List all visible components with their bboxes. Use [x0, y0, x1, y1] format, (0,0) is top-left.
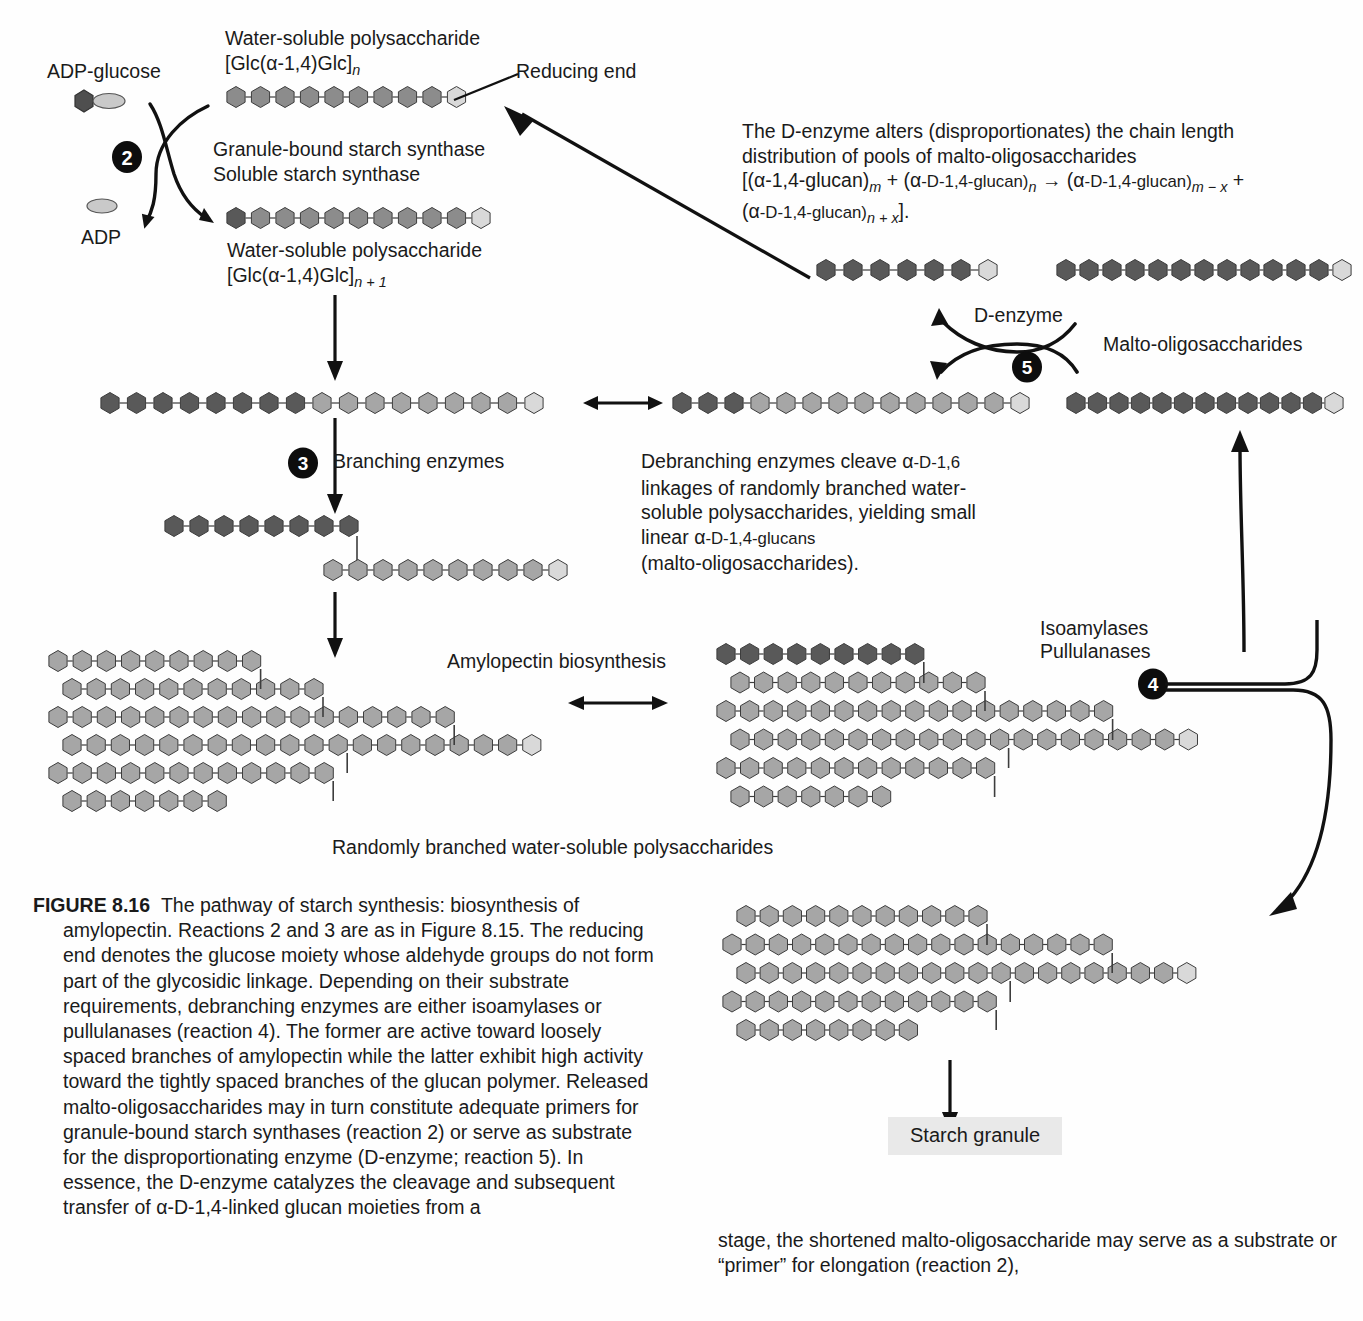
gbss-label: Granule-bound starch synthase	[213, 138, 485, 161]
d-enzyme-note-line2: distribution of pools of malto-oligosacc…	[742, 144, 1352, 169]
polysaccharide-n-line1: Water-soluble polysaccharide	[225, 26, 480, 51]
debranching-note-line1: Debranching enzymes cleave α-D-1,6	[641, 449, 1161, 476]
chain-polysaccharide-n1	[222, 203, 522, 233]
starch-granule-label: Starch granule	[888, 1117, 1062, 1155]
debranching-note-line4: linear α-D-1,4-glucans	[641, 525, 1161, 552]
double-arrow-amylopectin	[568, 692, 668, 714]
randomly-branched-label: Randomly branched water-soluble polysacc…	[332, 836, 773, 859]
debranching-note-line5: (malto-oligosaccharides).	[641, 551, 1161, 576]
branched-intermediate	[160, 510, 630, 590]
chain-malto-short-upper	[812, 255, 1022, 285]
d-enzyme-note-line3: [(α-1,4-glucan)m + (α-D-1,4-glucan)n → (…	[742, 168, 1352, 199]
figure-caption-left: FIGURE 8.16 The pathway of starch synthe…	[33, 893, 655, 1221]
branched-structure-right	[712, 638, 1292, 823]
chain-malto-long-upper	[1052, 255, 1352, 285]
polysaccharide-n-line2: [Glc(α-1,4)Glc]n	[225, 51, 480, 82]
polysaccharide-n1-label: Water-soluble polysaccharide [Glc(α-1,4)…	[227, 238, 482, 294]
adp-molecule	[84, 196, 120, 216]
chain-malto-long-mid	[1062, 388, 1352, 418]
d-enzyme-label: D-enzyme	[974, 304, 1063, 327]
polysaccharide-n1-line2: [Glc(α-1,4)Glc]n + 1	[227, 263, 482, 294]
d-enzyme-note-line1: The D-enzyme alters (disproportionates) …	[742, 119, 1352, 144]
sss-label: Soluble starch synthase	[213, 163, 420, 186]
svg-text:3: 3	[298, 453, 309, 474]
debranching-note-line3: soluble polysaccharides, yielding small	[641, 500, 1161, 525]
reaction-number-3: 3	[287, 447, 319, 479]
adp-label: ADP	[81, 226, 121, 249]
double-arrow-middle	[583, 392, 663, 414]
figure-caption-right: stage, the shortened malto-oligosacchari…	[718, 1228, 1343, 1278]
d-enzyme-note-line4: (α-D-1,4-glucan)n + x].	[742, 199, 1352, 230]
d-enzyme-note: The D-enzyme alters (disproportionates) …	[742, 119, 1352, 230]
chain-elongated-right	[668, 388, 1058, 418]
figure-number: FIGURE 8.16	[33, 894, 150, 916]
branching-enzymes-label: Branching enzymes	[333, 450, 504, 473]
debranching-note-line2: linkages of randomly branched water-	[641, 476, 1161, 501]
chain-elongated-left	[96, 388, 566, 418]
starch-granule-label-wrap: Starch granule	[888, 1124, 1062, 1147]
reducing-end-pointer	[452, 70, 522, 104]
adp-glucose-label: ADP-glucose	[47, 60, 161, 83]
svg-text:2: 2	[121, 147, 132, 169]
debranching-note: Debranching enzymes cleave α-D-1,6 linka…	[641, 449, 1161, 576]
reaction-number-5: 5	[1011, 351, 1043, 383]
isoamylases-label: Isoamylases	[1040, 617, 1148, 640]
arrow-recycle-to-synthase	[498, 104, 818, 284]
svg-text:5: 5	[1022, 357, 1033, 378]
starch-granule-structure	[718, 900, 1278, 1060]
malto-oligosaccharides-label: Malto-oligosaccharides	[1103, 333, 1302, 356]
reaction-number-2: 2	[110, 140, 144, 174]
amylopectin-biosynthesis-label: Amylopectin biosynthesis	[447, 650, 666, 673]
polysaccharide-n-label: Water-soluble polysaccharide [Glc(α-1,4)…	[225, 26, 480, 82]
polysaccharide-n1-line1: Water-soluble polysaccharide	[227, 238, 482, 263]
chain-malto-short-lower	[900, 388, 901, 389]
reducing-end-label: Reducing end	[516, 60, 636, 83]
arrow-down-to-elongated	[325, 295, 345, 383]
figure-caption-text: The pathway of starch synthesis: biosynt…	[63, 894, 654, 1218]
